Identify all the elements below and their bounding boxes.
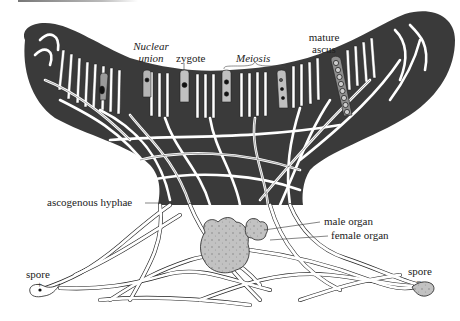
female-organ [200, 218, 249, 273]
label-mature-ascus-line2: ascus [304, 44, 344, 55]
label-nuclear-union-line1: Nuclear [128, 41, 174, 52]
ascus-nuclear-union [143, 70, 151, 97]
ascus-meiosis-1 [222, 70, 231, 102]
ascocarp-diagram [0, 0, 460, 321]
label-spore-right-sign: − [416, 276, 421, 287]
spore-left [30, 284, 60, 297]
male-organ [245, 219, 267, 241]
label-female-organ: female organ [331, 230, 389, 241]
label-mature-ascus-line1: mature [304, 32, 344, 43]
label-nuclear-union-line2: union [128, 53, 174, 64]
label-meiosis: Meiosis [236, 53, 270, 64]
label-spore-left-sign: + [37, 279, 42, 290]
label-zygote: zygote [176, 53, 205, 64]
label-ascogenous-hyphae: ascogenous hyphae [47, 197, 132, 208]
label-male-organ: male organ [324, 216, 373, 227]
